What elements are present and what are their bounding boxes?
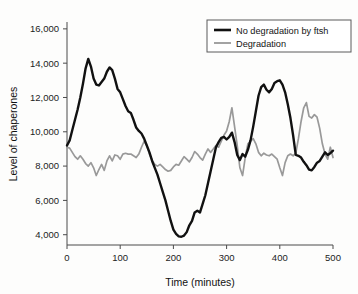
y-tick-label: 16,000: [30, 23, 59, 34]
y-tick-label: 4,000: [35, 229, 59, 240]
series-line-no-degradation: [67, 59, 333, 237]
chart-legend: No degradation by ftsh Degradation: [207, 20, 351, 52]
x-tick-label: 0: [64, 252, 69, 263]
legend-label-degradation: Degradation: [236, 39, 286, 49]
x-axis-ticks: 0100200300400500: [64, 245, 341, 263]
y-tick-label: 14,000: [30, 58, 59, 69]
data-series-group: [67, 59, 333, 237]
x-tick-label: 400: [272, 252, 288, 263]
x-tick-label: 300: [219, 252, 235, 263]
y-tick-label: 6,000: [35, 195, 59, 206]
x-tick-label: 500: [325, 252, 341, 263]
legend-label-no-degradation: No degradation by ftsh: [236, 26, 328, 36]
y-tick-label: 10,000: [30, 126, 59, 137]
y-axis-title: Level of chaperones: [7, 87, 19, 182]
y-tick-label: 12,000: [30, 92, 59, 103]
chart-container: 4,0006,0008,00010,00012,00014,00016,000 …: [0, 0, 358, 294]
x-axis-title: Time (minutes): [165, 276, 235, 288]
x-tick-label: 200: [165, 252, 181, 263]
line-chart-svg: 4,0006,0008,00010,00012,00014,00016,000 …: [0, 0, 358, 294]
x-tick-label: 100: [112, 252, 128, 263]
y-axis-ticks: 4,0006,0008,00010,00012,00014,00016,000: [30, 23, 67, 240]
y-tick-label: 8,000: [35, 160, 59, 171]
